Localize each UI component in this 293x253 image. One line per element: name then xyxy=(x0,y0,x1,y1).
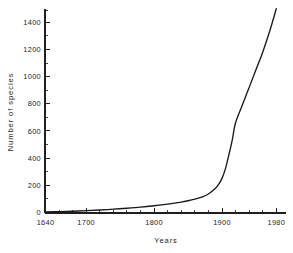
x-axis-title: Years xyxy=(154,236,178,245)
y-tick-label: 200 xyxy=(28,181,41,190)
line-chart-canvas: 0 200 400 600 800 1000 1200 1400 1640 17… xyxy=(0,0,293,253)
y-tick-label: 800 xyxy=(28,99,41,108)
x-tick-label: 1700 xyxy=(77,218,95,227)
x-tick-label: 1980 xyxy=(267,218,285,227)
data-series-line xyxy=(46,9,277,212)
x-axis-tick-labels: 1640 1700 1800 1900 1980 xyxy=(37,218,285,227)
y-tick-label: 600 xyxy=(28,127,41,136)
y-axis-tick-labels: 0 200 400 600 800 1000 1200 1400 xyxy=(23,18,41,217)
x-tick-label: 1640 xyxy=(37,218,55,227)
chart-figure: 0 200 400 600 800 1000 1200 1400 1640 17… xyxy=(0,0,293,253)
x-tick-label: 1900 xyxy=(213,218,231,227)
y-axis-title: Number of species xyxy=(6,73,15,152)
y-tick-label: 400 xyxy=(28,154,41,163)
y-tick-label: 0 xyxy=(37,208,41,217)
y-tick-label: 1400 xyxy=(23,18,41,27)
x-tick-label: 1800 xyxy=(145,218,163,227)
y-tick-label: 1000 xyxy=(23,72,41,81)
y-tick-label: 1200 xyxy=(23,45,41,54)
